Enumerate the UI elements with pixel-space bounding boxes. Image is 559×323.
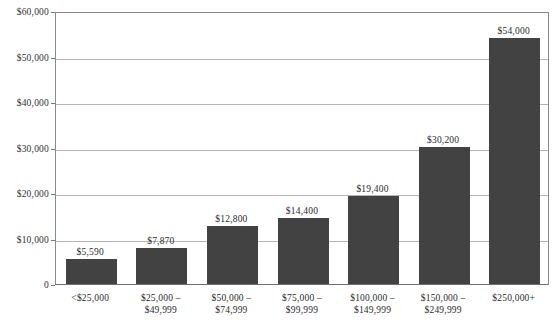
bar-value-label: $54,000 bbox=[498, 26, 530, 36]
x-axis-category-label: $25,000 – $49,999 bbox=[141, 293, 181, 316]
x-axis-category-label: $75,000 – $99,999 bbox=[282, 293, 322, 316]
x-axis-category-label: <$25,000 bbox=[71, 293, 109, 305]
bar-value-label: $7,870 bbox=[147, 236, 174, 246]
bar-value-label: $5,590 bbox=[77, 247, 104, 257]
bar-value-label: $19,400 bbox=[356, 184, 388, 194]
bar-value-label: $12,800 bbox=[215, 214, 247, 224]
x-axis-category-label: $250,000+ bbox=[492, 293, 535, 305]
x-axis-category-label: $50,000 – $74,999 bbox=[212, 293, 252, 316]
bar-chart: 0$10,000$20,000$30,000$40,000$50,000$60,… bbox=[0, 0, 559, 323]
x-axis: $5,590<$25,000$7,870$25,000 – $49,999$12… bbox=[0, 0, 559, 323]
x-axis-category-label: $100,000 – $149,999 bbox=[350, 293, 395, 316]
x-axis-category-label: $150,000 – $249,999 bbox=[421, 293, 466, 316]
bar-value-label: $30,200 bbox=[427, 135, 459, 145]
bar-value-label: $14,400 bbox=[286, 206, 318, 216]
